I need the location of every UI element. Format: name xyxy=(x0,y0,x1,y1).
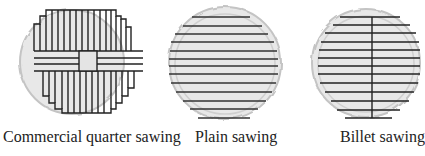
billet-sawing-diagram xyxy=(312,9,420,118)
commercial-quarter-sawing-diagram xyxy=(20,10,143,114)
plain-sawing-diagram xyxy=(169,7,281,119)
log-cross-section xyxy=(20,10,124,114)
caption-billet-sawing: Billet sawing xyxy=(340,128,425,146)
caption-commercial-quarter-sawing: Commercial quarter sawing xyxy=(3,128,181,146)
log-cross-section xyxy=(169,7,281,119)
caption-plain-sawing: Plain sawing xyxy=(195,128,277,146)
